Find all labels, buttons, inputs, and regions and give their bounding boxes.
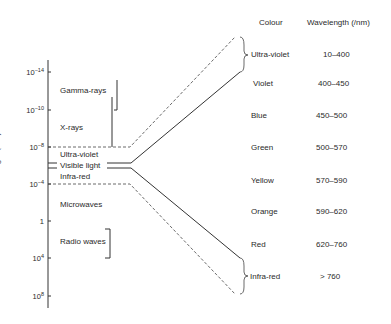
colour-name: Green (251, 144, 273, 152)
region-radio: Radio waves (60, 238, 106, 246)
colour-name: Infra-red (250, 273, 280, 281)
colour-name: Yellow (251, 177, 274, 185)
colour-range: 500–570 (316, 144, 347, 152)
region-xray: X-rays (60, 124, 83, 132)
header-colour: Colour (259, 18, 283, 27)
region-gamma: Gamma-rays (60, 87, 106, 95)
colour-range: 10–400 (323, 51, 350, 59)
region-ir: Infra-red (60, 173, 90, 181)
colour-range: > 760 (320, 273, 340, 281)
colour-range: 450–500 (316, 112, 347, 120)
colour-name: Orange (251, 208, 278, 216)
tick-label: 10−10 (4, 106, 44, 115)
tick-label: 10−8 (4, 143, 44, 152)
colour-name: Violet (253, 80, 273, 88)
colour-name: Blue (251, 112, 267, 120)
axis-label: Wavelength (λ/m) (0, 133, 1, 195)
colour-name: Red (251, 241, 266, 249)
region-visible: Visible light (60, 162, 100, 170)
colour-range: 570–590 (316, 177, 347, 185)
colour-range: 620–760 (316, 241, 347, 249)
colour-range: 400–450 (318, 80, 349, 88)
colour-range: 590–620 (316, 208, 347, 216)
tick-label: 104 (4, 254, 44, 263)
tick-label: 10−4 (4, 180, 44, 189)
region-uv: Ultra-violet (60, 151, 98, 159)
tick-label: 1 (4, 217, 44, 226)
tick-label: 108 (4, 292, 44, 301)
region-micro: Microwaves (60, 201, 102, 209)
header-wavelength: Wavelength (/nm) (307, 18, 370, 27)
tick-label: 10−14 (4, 68, 44, 77)
colour-name: Ultra-violet (251, 51, 289, 59)
